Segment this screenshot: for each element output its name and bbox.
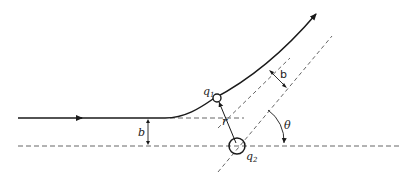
label-r: r [222, 115, 228, 128]
label-theta: θ [284, 119, 291, 132]
outgoing-trajectory [165, 14, 316, 118]
label-b-incoming: b [138, 126, 145, 139]
scattering-diagram: b b θ q1 r q2 [0, 0, 414, 181]
label-q1: q1 [203, 85, 215, 99]
impact-parameter-b-incoming [146, 119, 150, 145]
label-q2: q2 [246, 150, 258, 164]
label-b-outgoing: b [280, 68, 287, 81]
scattering-angle-theta [268, 110, 284, 143]
